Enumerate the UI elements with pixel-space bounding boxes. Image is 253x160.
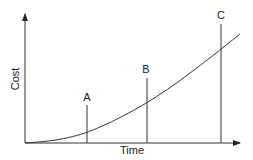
- cost-time-diagram: A B C Cost Time: [0, 0, 253, 160]
- cost-curve: [25, 34, 240, 143]
- x-axis-label: Time: [120, 144, 144, 156]
- y-axis-label: Cost: [9, 68, 21, 91]
- marker-label-b: B: [142, 63, 149, 75]
- marker-label-c: C: [217, 9, 225, 21]
- marker-label-a: A: [83, 91, 91, 103]
